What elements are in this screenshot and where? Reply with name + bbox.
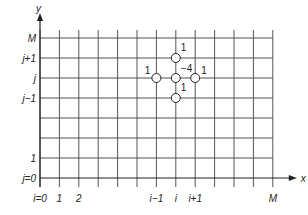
stencil-node (171, 74, 180, 83)
x-tick-label: 1 (57, 193, 63, 204)
x-axis-arrow-icon (289, 175, 297, 181)
y-axis-arrow-icon (37, 13, 43, 21)
x-tick-label: M (269, 193, 278, 204)
y-tick-label: j+1 (20, 53, 36, 64)
finite-difference-grid-diagram: xyi=012i−1ii+1Mj=01j−1jj+1M−41111 (0, 0, 308, 215)
stencil-node (171, 94, 180, 103)
x-tick-label: i=0 (33, 193, 47, 204)
stencil-weight-top: 1 (181, 42, 187, 53)
x-tick-label: i−1 (150, 193, 164, 204)
y-tick-label: j=0 (20, 173, 36, 184)
stencil-weight-center: −4 (181, 63, 193, 74)
y-tick-label: 1 (30, 153, 36, 164)
x-tick-label: 2 (75, 193, 82, 204)
stencil-weight-bottom: 1 (181, 82, 187, 93)
grid-canvas: xyi=012i−1ii+1Mj=01j−1jj+1M−41111 (0, 0, 308, 215)
x-tick-label: i+1 (188, 193, 202, 204)
x-tick-label: i (175, 193, 178, 204)
y-tick-label: j (32, 73, 37, 84)
stencil-node (152, 74, 161, 83)
y-axis-label: y (35, 3, 42, 14)
stencil-weight-right: 1 (201, 65, 207, 76)
stencil-node (191, 74, 200, 83)
y-tick-label: M (28, 33, 37, 44)
stencil-weight-left: 1 (145, 65, 151, 76)
y-tick-label: j−1 (20, 93, 36, 104)
stencil-node (171, 54, 180, 63)
x-axis-label: x (300, 173, 307, 184)
